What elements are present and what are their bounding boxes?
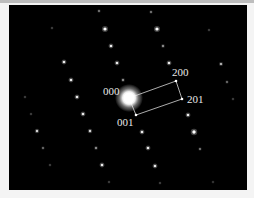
spot-001 — [135, 114, 138, 117]
diffraction-spot — [141, 131, 144, 134]
diffraction-spot — [51, 27, 53, 29]
label-000: 000 — [103, 86, 120, 97]
diffraction-spot — [36, 130, 38, 132]
diffraction-spot — [232, 98, 234, 100]
diffraction-spot — [162, 45, 164, 47]
diffraction-spot — [192, 130, 195, 133]
diffraction-spot — [159, 182, 161, 184]
central-beam-core — [124, 93, 135, 104]
diffraction-spot — [226, 81, 228, 83]
diffraction-spot — [154, 165, 157, 168]
diffraction-spot — [116, 62, 119, 65]
diffraction-spot — [42, 147, 44, 149]
diffraction-spot — [76, 96, 79, 99]
diffraction-spot — [24, 96, 26, 98]
diffraction-spot — [89, 130, 91, 132]
diffraction-spot — [70, 79, 73, 82]
diffraction-spot — [30, 113, 32, 115]
diffraction-spot — [63, 61, 66, 64]
diffraction-spot — [82, 113, 85, 116]
diffraction-spot — [150, 11, 152, 13]
diffraction-spot — [155, 27, 158, 30]
figure-frame: 000 200 201 001 — [0, 0, 254, 198]
diffraction-spot — [95, 147, 97, 149]
diffraction-spot — [220, 63, 222, 65]
diffraction-spot — [98, 10, 100, 12]
diffraction-spot — [122, 79, 124, 81]
label-200: 200 — [172, 67, 189, 78]
spot-201 — [181, 98, 184, 101]
spot-200 — [175, 80, 178, 83]
diffraction-spot — [208, 29, 210, 31]
diffraction-spot — [103, 27, 106, 30]
diffraction-spot — [212, 181, 214, 183]
label-201: 201 — [187, 94, 204, 105]
diffraction-spot — [199, 148, 201, 150]
diffraction-spot — [49, 164, 51, 166]
diffraction-overlay — [0, 0, 254, 198]
diffraction-spot — [108, 181, 110, 183]
diffraction-spot — [110, 45, 113, 48]
label-001: 001 — [117, 117, 134, 128]
diffraction-spot — [168, 62, 171, 65]
diffraction-spot — [187, 114, 190, 117]
diffraction-spot — [101, 164, 104, 167]
diffraction-spot — [147, 147, 150, 150]
